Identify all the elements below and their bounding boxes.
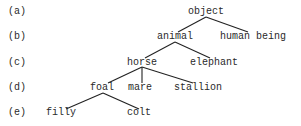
node-object: object: [188, 7, 224, 17]
row-label-b: (b): [8, 32, 26, 42]
node-foal: foal: [90, 83, 114, 93]
node-horse: horse: [127, 58, 157, 68]
edge-object-human-being: [206, 17, 248, 32]
node-colt: colt: [127, 108, 151, 118]
node-mare: mare: [128, 83, 152, 93]
node-filly: filly: [46, 108, 76, 118]
row-label-e: (e): [8, 108, 26, 118]
node-elephant: elephant: [190, 58, 238, 68]
edge-horse-stallion: [142, 67, 193, 83]
row-label-c: (c): [8, 58, 26, 68]
edge-animal-elephant: [175, 42, 210, 58]
node-stallion: stallion: [174, 83, 222, 93]
node-animal: animal: [157, 32, 193, 42]
edge-animal-horse: [145, 42, 175, 58]
edge-object-animal: [178, 17, 206, 32]
edge-horse-foal: [108, 67, 142, 83]
row-label-a: (a): [8, 7, 26, 17]
node-human-being: human being: [220, 32, 286, 42]
row-label-d: (d): [8, 83, 26, 93]
taxonomy-tree-diagram: (a) (b) (c) (d) (e) object animal human …: [0, 0, 301, 126]
